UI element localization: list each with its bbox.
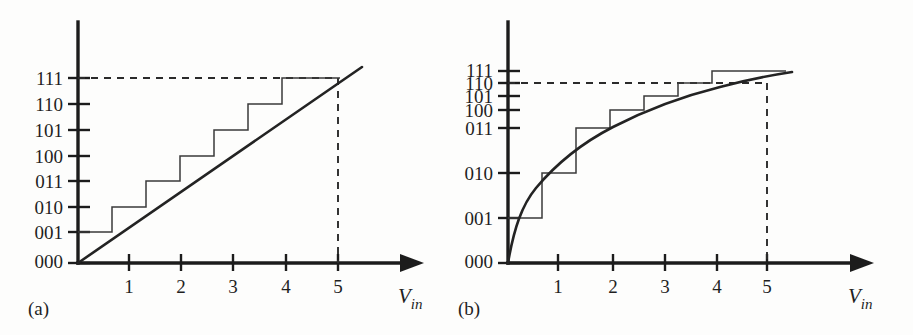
staircase-b	[508, 71, 786, 218]
figure-container: 111 110 101 100 011 010 001 000 1 2 3 4 …	[0, 0, 913, 335]
x-tick-label-b-2: 2	[608, 276, 618, 297]
y-tick-label-a-100: 100	[35, 146, 64, 167]
y-tick-label-a-010: 010	[35, 197, 64, 218]
x-tick-label-b-5: 5	[762, 276, 772, 297]
x-tick-label-a-1: 1	[124, 276, 134, 297]
staircase-a	[78, 78, 340, 232]
x-tick-label-a-3: 3	[228, 276, 238, 297]
x-axis-title-b: Vin	[848, 284, 873, 312]
y-tick-label-a-110: 110	[35, 94, 63, 115]
y-tick-label-a-101: 101	[35, 120, 64, 141]
y-tick-label-a-011: 011	[35, 171, 63, 192]
x-tick-label-a-2: 2	[176, 276, 186, 297]
ideal-line-a	[78, 67, 362, 263]
x-axis-arrow-a	[400, 254, 424, 272]
x-tick-label-b-1: 1	[553, 276, 563, 297]
panel-caption-b: (b)	[458, 298, 480, 320]
x-axis-arrow-b	[850, 254, 874, 272]
y-tick-label-b-001: 001	[465, 208, 494, 229]
x-tick-label-a-5: 5	[333, 276, 343, 297]
x-tick-label-b-3: 3	[660, 276, 670, 297]
ideal-curve-b	[508, 72, 792, 263]
x-axis-title-a: Vin	[398, 284, 423, 312]
y-tick-label-b-010: 010	[465, 163, 494, 184]
panel-a: 111 110 101 100 011 010 001 000 1 2 3 4 …	[0, 0, 456, 335]
y-tick-label-a-001: 001	[35, 222, 64, 243]
panel-b: 111 110 101 100 011 010 001 000 1 2 3 4 …	[456, 0, 912, 335]
y-tick-label-a-111: 111	[36, 68, 63, 89]
panel-caption-a: (a)	[28, 298, 49, 320]
y-tick-label-b-000: 000	[465, 251, 494, 272]
x-tick-label-a-4: 4	[281, 276, 291, 297]
y-tick-label-b-011: 011	[465, 118, 493, 139]
y-tick-label-a-000: 000	[35, 251, 64, 272]
x-tick-label-b-4: 4	[712, 276, 722, 297]
